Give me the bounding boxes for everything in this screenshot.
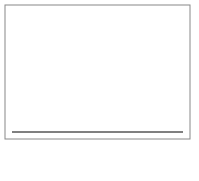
plot-frame (5, 5, 190, 139)
f-distribution-histogram (0, 0, 199, 181)
